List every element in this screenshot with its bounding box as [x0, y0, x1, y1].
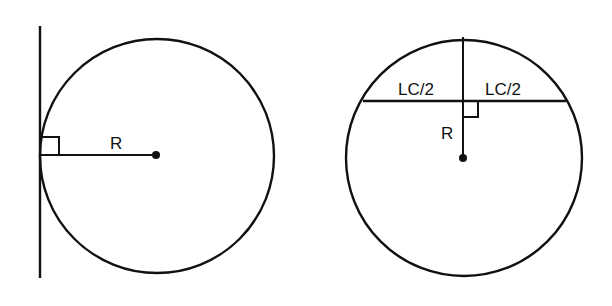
center-point-right	[459, 154, 467, 162]
right-angle-marker-left	[41, 137, 59, 155]
center-point-left	[152, 151, 160, 159]
tangent-figure: R	[40, 26, 274, 278]
half-chord-label-right: LC/2	[485, 80, 521, 99]
chord-figure: LC/2 LC/2 R	[346, 37, 582, 276]
half-chord-label-left: LC/2	[398, 80, 434, 99]
radius-label-left: R	[110, 134, 122, 153]
right-angle-marker-right	[464, 102, 478, 117]
radius-label-right: R	[441, 124, 453, 143]
diagram-canvas: R LC/2 LC/2 R	[0, 0, 612, 306]
